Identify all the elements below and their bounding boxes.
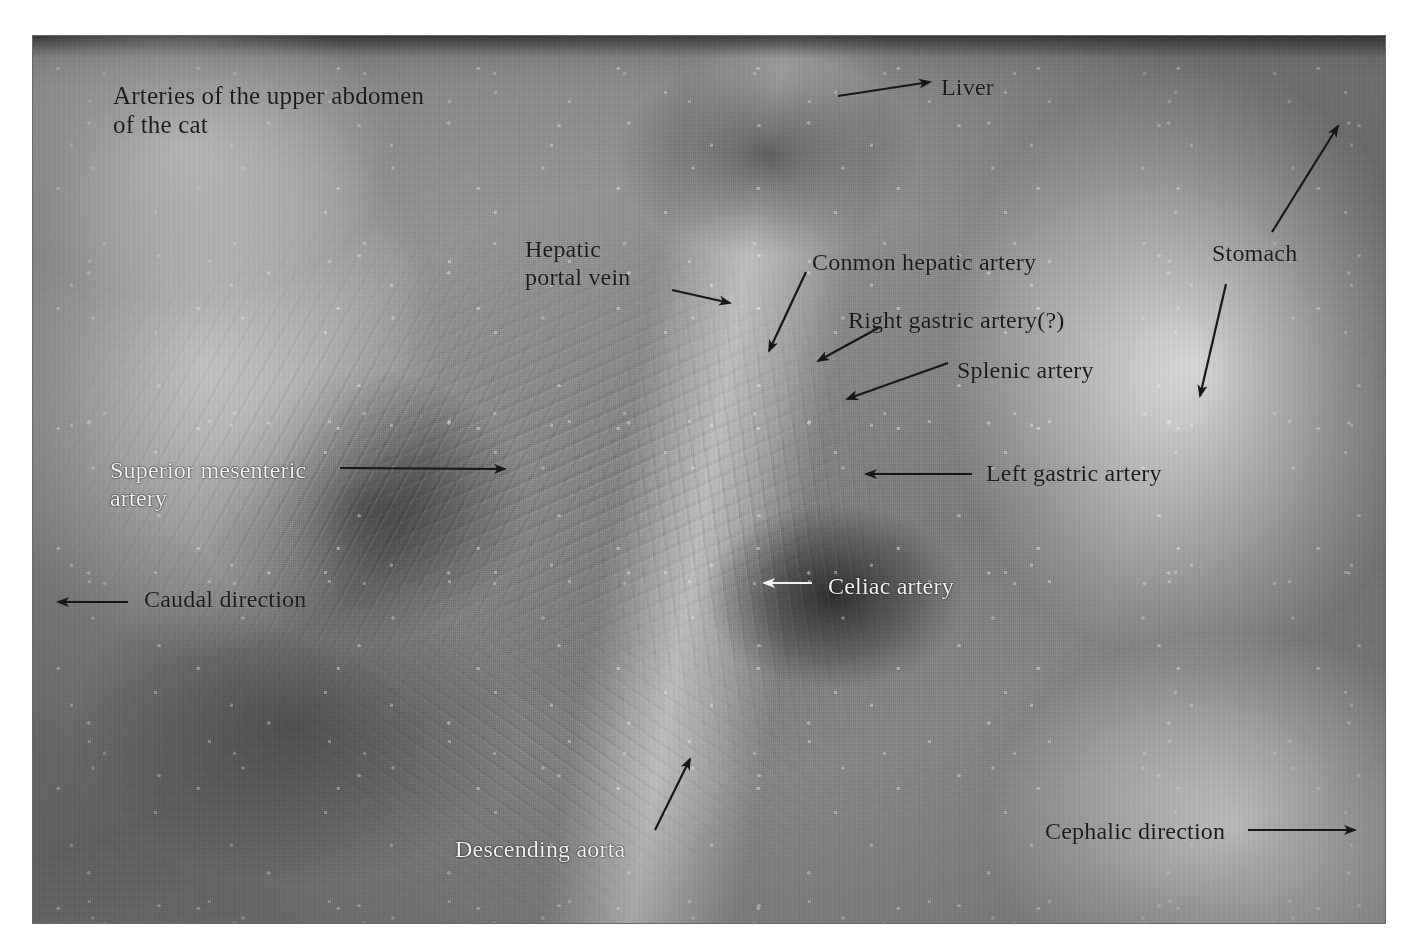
label-caudal-direction: Caudal direction: [144, 586, 306, 614]
label-title: Arteries of the upper abdomen of the cat: [113, 82, 424, 140]
label-splenic-artery: Splenic artery: [957, 357, 1094, 385]
label-liver: Liver: [941, 74, 994, 102]
arrow-stomach-up: [1272, 126, 1338, 232]
label-celiac-artery: Celiac artery: [828, 573, 954, 601]
arrow-common-hepatic-artery: [769, 272, 806, 351]
arrow-splenic-artery: [847, 363, 948, 399]
arrow-stomach-down: [1200, 284, 1226, 396]
anatomical-photograph: Arteries of the upper abdomen of the cat…: [33, 36, 1385, 923]
label-common-hepatic-artery: Conmon hepatic artery: [812, 249, 1036, 277]
arrow-descending-aorta: [655, 759, 690, 830]
label-cephalic-direction: Cephalic direction: [1045, 818, 1225, 846]
arrow-liver: [838, 82, 930, 96]
label-left-gastric-artery: Left gastric artery: [986, 460, 1162, 488]
label-right-gastric-artery: Right gastric artery(?): [848, 307, 1065, 335]
label-superior-mesenteric-artery: Superior mesenteric artery: [110, 457, 306, 512]
arrow-superior-mesenteric: [340, 468, 505, 469]
figure-page: Arteries of the upper abdomen of the cat…: [0, 0, 1407, 941]
label-stomach: Stomach: [1212, 240, 1297, 268]
arrow-hepatic-portal-vein: [672, 290, 730, 303]
label-hepatic-portal-vein: Hepatic portal vein: [525, 236, 631, 291]
label-descending-aorta: Descending aorta: [455, 836, 625, 864]
